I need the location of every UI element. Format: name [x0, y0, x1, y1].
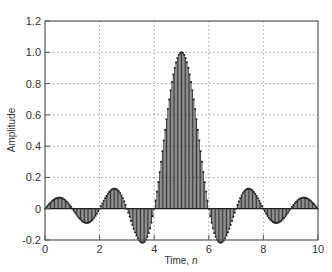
y-axis-label: Amplitude [6, 107, 17, 152]
x-tick-label: 4 [151, 243, 157, 255]
x-tick-label: 6 [206, 243, 212, 255]
x-axis-ticks: 0246810 [42, 235, 324, 255]
y-tick-label: 0.4 [26, 140, 41, 152]
stem-plot: -0.200.20.40.60.81.01.2 0246810 Amplitud… [0, 0, 332, 272]
x-axis-label: Time, n [165, 255, 198, 266]
x-tick-label: 8 [260, 243, 266, 255]
y-tick-label: 0.8 [26, 78, 41, 90]
y-tick-label: 0.6 [26, 109, 41, 121]
stem-series [44, 51, 319, 243]
y-axis-ticks: -0.200.20.40.60.81.01.2 [22, 15, 50, 246]
x-tick-label: 2 [97, 243, 103, 255]
x-tick-label: 0 [42, 243, 48, 255]
y-tick-label: 0 [35, 203, 41, 215]
y-tick-label: 1.0 [26, 46, 41, 58]
y-tick-label: -0.2 [22, 234, 41, 246]
y-tick-label: 1.2 [26, 15, 41, 27]
y-tick-label: 0.2 [26, 171, 41, 183]
x-tick-label: 10 [312, 243, 324, 255]
